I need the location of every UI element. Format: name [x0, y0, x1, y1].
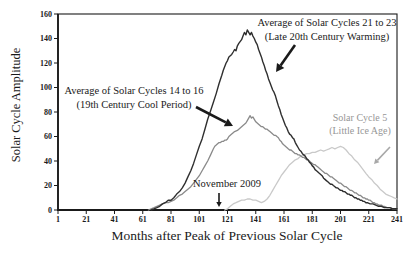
x-tick-label: 41 [111, 215, 119, 224]
y-tick-label: 60 [44, 132, 52, 141]
series-avg-21-23 [151, 30, 397, 210]
y-tick-label: 40 [44, 157, 52, 166]
solar-cycle-chart: 0204060801001201401601214161811011211411… [0, 0, 419, 254]
x-tick-label: 101 [193, 215, 205, 224]
axis-lines [58, 14, 397, 210]
x-tick-label: 181 [306, 215, 318, 224]
y-tick-label: 20 [44, 181, 52, 190]
arrow-november-2009-head [216, 202, 221, 207]
x-tick-label: 61 [139, 215, 147, 224]
x-tick-label: 1 [56, 215, 60, 224]
chart-canvas: 0204060801001201401601214161811011211411… [0, 0, 419, 254]
plot-frame [58, 14, 397, 210]
x-tick-label: 81 [167, 215, 175, 224]
x-tick-label: 241 [391, 215, 403, 224]
x-tick-label: 141 [250, 215, 262, 224]
series-avg-14-16 [148, 116, 397, 210]
x-tick-label: 21 [82, 215, 90, 224]
x-tick-label: 121 [222, 215, 234, 224]
y-tick-label: 0 [48, 206, 52, 215]
x-tick-label: 161 [278, 215, 290, 224]
y-tick-label: 100 [40, 83, 52, 92]
x-tick-label: 221 [363, 215, 375, 224]
x-tick-label: 201 [335, 215, 347, 224]
y-tick-label: 140 [40, 34, 52, 43]
y-tick-label: 120 [40, 59, 52, 68]
y-tick-label: 80 [44, 108, 52, 117]
arrow-cycles-21-23 [281, 45, 295, 65]
y-tick-label: 160 [40, 10, 52, 19]
arrow-cycle-5 [377, 147, 390, 160]
